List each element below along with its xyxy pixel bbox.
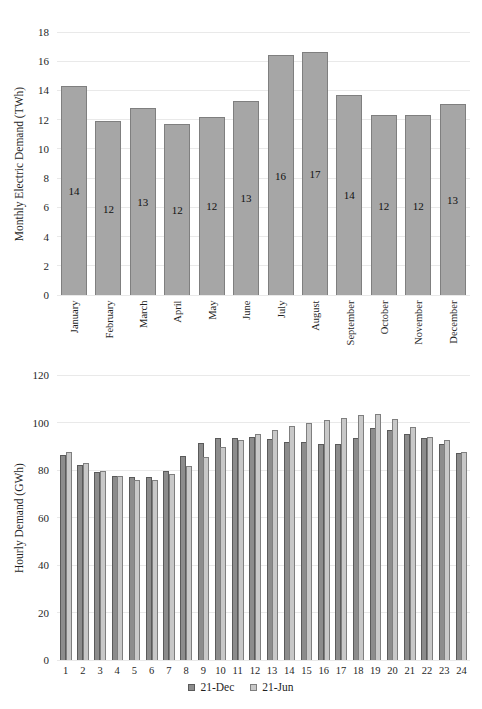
monthly-chart-plot-area: 141213121213161714121213 bbox=[57, 32, 470, 295]
bar-21-jun-hour-10 bbox=[220, 447, 226, 660]
x-tick-label-hour-8: 8 bbox=[177, 664, 194, 677]
bar-21-jun-hour-2 bbox=[83, 463, 89, 660]
x-tick-label-hour-6: 6 bbox=[143, 664, 160, 677]
x-tick-label-hour-19: 19 bbox=[367, 664, 384, 677]
x-tick-label-hour-13: 13 bbox=[264, 664, 281, 677]
bar-21-jun-hour-14 bbox=[289, 426, 295, 660]
x-tick-label-hour-22: 22 bbox=[418, 664, 435, 677]
x-tick-label-hour-4: 4 bbox=[109, 664, 126, 677]
bar-21-jun-hour-15 bbox=[306, 423, 312, 661]
x-tick-label-hour-7: 7 bbox=[160, 664, 177, 677]
gridline bbox=[57, 375, 470, 376]
bar-value-label: 16 bbox=[269, 170, 293, 182]
y-tick-label: 8 bbox=[0, 171, 49, 185]
y-tick-label: 80 bbox=[0, 463, 49, 477]
bar-21-jun-hour-11 bbox=[238, 440, 244, 660]
bar-21-jun-hour-7 bbox=[169, 474, 175, 660]
x-tick-label-hour-15: 15 bbox=[298, 664, 315, 677]
x-tick-label-hour-5: 5 bbox=[126, 664, 143, 677]
bar-value-label: 12 bbox=[165, 204, 189, 216]
bar-value-label: 13 bbox=[441, 194, 465, 206]
bar-21-jun-hour-21 bbox=[410, 427, 416, 660]
x-tick-label-april: April bbox=[171, 300, 184, 364]
x-tick-label-hour-23: 23 bbox=[436, 664, 453, 677]
x-tick-label-hour-3: 3 bbox=[91, 664, 108, 677]
bar-21-jun-hour-12 bbox=[255, 434, 261, 660]
bar-21-jun-hour-5 bbox=[134, 480, 140, 661]
charts-canvas: Monthly Electric Demand (TWh) 1412131212… bbox=[0, 0, 482, 709]
jun-series-swatch-icon bbox=[250, 684, 257, 691]
y-tick-label: 16 bbox=[0, 54, 49, 68]
bar-value-label: 14 bbox=[337, 189, 361, 201]
bar-value-label: 17 bbox=[303, 168, 327, 180]
x-tick-label-hour-12: 12 bbox=[246, 664, 263, 677]
bar-21-jun-hour-22 bbox=[427, 437, 433, 660]
x-tick-label-december: December bbox=[446, 300, 459, 364]
bar-21-jun-hour-18 bbox=[358, 415, 364, 660]
bar-august: 17 bbox=[302, 52, 328, 295]
bar-may: 12 bbox=[199, 117, 225, 295]
x-tick-label-hour-2: 2 bbox=[74, 664, 91, 677]
x-tick-label-may: May bbox=[205, 300, 218, 364]
bar-21-jun-hour-9 bbox=[203, 457, 209, 660]
bar-21-jun-hour-6 bbox=[152, 480, 158, 661]
legend-item-21-dec: 21-Dec bbox=[188, 681, 234, 693]
bar-september: 14 bbox=[336, 95, 362, 295]
dec-series-swatch-icon bbox=[188, 684, 195, 691]
x-tick-label-hour-17: 17 bbox=[332, 664, 349, 677]
bar-value-label: 12 bbox=[372, 200, 396, 212]
x-tick-label-february: February bbox=[102, 300, 115, 364]
bar-21-jun-hour-16 bbox=[324, 420, 330, 660]
y-tick-label: 12 bbox=[0, 113, 49, 127]
chart-legend: 21-Dec 21-Jun bbox=[0, 681, 482, 693]
gridline bbox=[57, 61, 470, 62]
x-tick-label-hour-9: 9 bbox=[195, 664, 212, 677]
bar-21-jun-hour-24 bbox=[461, 452, 467, 660]
monthly-chart-y-axis-title: Monthly Electric Demand (TWh) bbox=[10, 32, 26, 295]
x-tick-label-hour-20: 20 bbox=[384, 664, 401, 677]
y-tick-label: 120 bbox=[0, 368, 49, 382]
x-tick-label-hour-16: 16 bbox=[315, 664, 332, 677]
bar-june: 13 bbox=[233, 101, 259, 295]
y-tick-label: 14 bbox=[0, 83, 49, 97]
x-tick-label-hour-10: 10 bbox=[212, 664, 229, 677]
bar-21-jun-hour-23 bbox=[444, 440, 450, 660]
x-tick-label-september: September bbox=[343, 300, 356, 364]
bar-21-jun-hour-8 bbox=[186, 466, 192, 660]
legend-label-21-jun: 21-Jun bbox=[262, 681, 293, 693]
gridline bbox=[57, 90, 470, 91]
y-tick-label: 20 bbox=[0, 606, 49, 620]
bar-value-label: 12 bbox=[96, 203, 120, 215]
x-tick-label-hour-21: 21 bbox=[401, 664, 418, 677]
x-tick-label-january: January bbox=[68, 300, 81, 364]
x-tick-label-november: November bbox=[412, 300, 425, 364]
bar-march: 13 bbox=[130, 108, 156, 295]
x-tick-label-october: October bbox=[377, 300, 390, 364]
x-tick-label-march: March bbox=[137, 300, 150, 364]
y-tick-label: 0 bbox=[0, 288, 49, 302]
bar-value-label: 14 bbox=[62, 185, 86, 197]
x-tick-label-hour-24: 24 bbox=[453, 664, 470, 677]
x-tick-label-hour-11: 11 bbox=[229, 664, 246, 677]
hourly-chart-plot-area bbox=[57, 375, 470, 660]
y-tick-label: 10 bbox=[0, 142, 49, 156]
bar-21-jun-hour-20 bbox=[392, 419, 398, 660]
y-tick-label: 2 bbox=[0, 259, 49, 273]
legend-item-21-jun: 21-Jun bbox=[250, 681, 293, 693]
legend-label-21-dec: 21-Dec bbox=[200, 681, 234, 693]
bar-value-label: 13 bbox=[234, 192, 258, 204]
bar-21-jun-hour-3 bbox=[100, 471, 106, 660]
bar-january: 14 bbox=[61, 86, 87, 295]
bar-february: 12 bbox=[95, 121, 121, 295]
x-tick-label-hour-1: 1 bbox=[57, 664, 74, 677]
y-tick-label: 6 bbox=[0, 200, 49, 214]
bar-july: 16 bbox=[268, 55, 294, 295]
bar-october: 12 bbox=[371, 115, 397, 295]
x-tick-label-july: July bbox=[274, 300, 287, 364]
x-tick-label-august: August bbox=[309, 300, 322, 364]
bar-november: 12 bbox=[405, 115, 431, 295]
bar-21-jun-hour-4 bbox=[117, 476, 123, 660]
gridline bbox=[57, 422, 470, 423]
x-tick-label-june: June bbox=[240, 300, 253, 364]
bar-21-jun-hour-19 bbox=[375, 414, 381, 660]
